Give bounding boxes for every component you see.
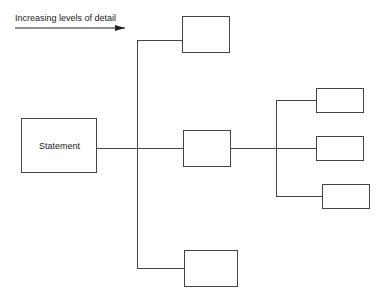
level1-box-bottom [185, 251, 238, 287]
level2-box-bottom [323, 185, 370, 209]
level2-box-top [317, 89, 364, 113]
statement-label: Statement [22, 119, 97, 173]
diagram-canvas: Increasing levels of detail Statement [0, 0, 384, 299]
level1-box-top [183, 17, 230, 53]
level1-box-middle [184, 131, 231, 167]
detail-arrow-label: Increasing levels of detail [15, 13, 116, 23]
level2-box-middle [317, 137, 364, 161]
